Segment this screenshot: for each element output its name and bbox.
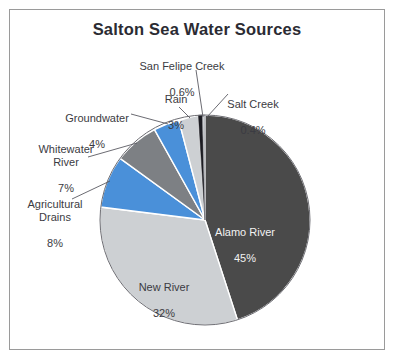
callout-whitewater-river-name: Whitewater River	[16, 143, 116, 169]
callout-rain-name: Rain	[146, 93, 206, 106]
slice-label-alamo-river-name: Alamo River	[195, 226, 295, 239]
slice-label-new-river: New River 32%	[114, 268, 214, 333]
callout-rain: Rain 3%	[146, 80, 206, 145]
callout-rain-value: 3%	[146, 119, 206, 132]
slice-label-new-river-value: 32%	[114, 307, 214, 320]
callout-salt-creek: Salt Creek 0.4%	[208, 85, 298, 150]
slice-label-new-river-name: New River	[114, 281, 214, 294]
callout-salt-creek-value: 0.4%	[208, 124, 298, 137]
slice-label-alamo-river-value: 45%	[195, 252, 295, 265]
callout-san-felipe-creek-name: San Felipe Creek	[122, 60, 242, 73]
callout-salt-creek-name: Salt Creek	[208, 98, 298, 111]
callout-agricultural-drains-name: Agricultural Drains	[5, 198, 105, 224]
callout-groundwater-name: Groundwater	[42, 112, 152, 125]
callout-agricultural-drains-value: 8%	[5, 237, 105, 250]
callout-agricultural-drains: Agricultural Drains 8%	[5, 185, 105, 263]
